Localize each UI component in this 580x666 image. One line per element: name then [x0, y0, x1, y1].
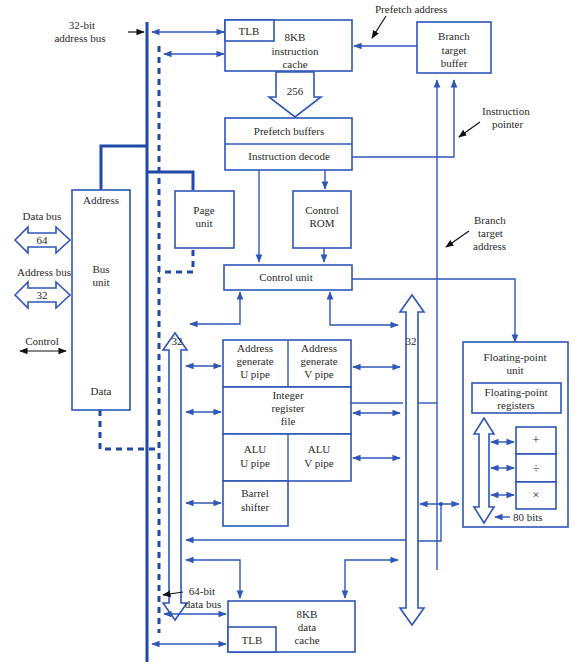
- svg-text:Branch: Branch: [474, 214, 506, 226]
- integer-core: Address generate U pipe Address generate…: [223, 340, 351, 526]
- svg-text:Prefetch address: Prefetch address: [375, 3, 447, 15]
- svg-text:Address: Address: [83, 194, 119, 206]
- svg-text:ALU: ALU: [244, 443, 267, 455]
- page-unit-address-link: [147, 172, 193, 190]
- prefetch-buffers: Prefetch buffers: [254, 125, 324, 137]
- svg-text:×: ×: [532, 487, 539, 502]
- svg-text:Address: Address: [237, 342, 273, 354]
- svg-text:U pipe: U pipe: [240, 368, 270, 380]
- svg-text:Control: Control: [25, 335, 59, 347]
- svg-text:Control unit: Control unit: [259, 271, 312, 283]
- svg-text:8KB: 8KB: [297, 608, 318, 620]
- svg-text:address: address: [473, 240, 506, 252]
- bus-unit: Address Bus unit Data: [72, 190, 130, 410]
- svg-text:data: data: [298, 621, 316, 633]
- svg-text:buffer: buffer: [441, 57, 468, 69]
- svg-text:Barrel: Barrel: [241, 487, 268, 499]
- svg-text:Address: Address: [301, 342, 337, 354]
- svg-text:Bus: Bus: [92, 263, 109, 275]
- svg-text:cache: cache: [282, 58, 307, 70]
- svg-text:80 bits: 80 bits: [513, 511, 543, 523]
- svg-text:256: 256: [287, 85, 304, 97]
- svg-text:U pipe: U pipe: [240, 457, 270, 469]
- instruction-cache: TLB 8KB instruction cache: [225, 20, 352, 71]
- control-rom: Control ROM: [293, 191, 351, 248]
- svg-text:Floating-point: Floating-point: [485, 386, 548, 398]
- svg-text:register: register: [272, 402, 305, 414]
- svg-text:Floating-point: Floating-point: [484, 351, 547, 363]
- svg-text:unit: unit: [506, 364, 523, 376]
- svg-text:TLB: TLB: [239, 25, 260, 37]
- left-32-bus-arrow: [163, 333, 187, 620]
- svg-text:64: 64: [37, 234, 49, 246]
- instruction-decode: Instruction decode: [248, 150, 330, 162]
- processor-block-diagram: TLB 8KB instruction cache 256 Branch tar…: [0, 0, 580, 666]
- svg-text:instruction: instruction: [271, 45, 319, 57]
- svg-text:Integer: Integer: [272, 389, 303, 401]
- svg-text:Page: Page: [193, 204, 215, 216]
- svg-text:Control: Control: [305, 204, 339, 216]
- svg-text:V pipe: V pipe: [304, 368, 334, 380]
- branch-target-buffer: Branch target buffer: [417, 22, 491, 73]
- svg-text:file: file: [281, 415, 296, 427]
- floating-point-unit: Floating-point unit Floating-point regis…: [463, 342, 568, 527]
- svg-text:pointer: pointer: [492, 118, 523, 130]
- svg-text:Instruction: Instruction: [482, 105, 530, 117]
- bus-unit-data-link: [100, 410, 159, 449]
- svg-text:32: 32: [406, 335, 417, 347]
- svg-text:Data: Data: [91, 385, 112, 397]
- svg-text:generate: generate: [300, 355, 337, 367]
- svg-text:Branch: Branch: [438, 30, 470, 42]
- svg-text:8KB: 8KB: [285, 31, 306, 43]
- svg-text:unit: unit: [195, 217, 212, 229]
- svg-text:Address bus: Address bus: [17, 266, 71, 278]
- svg-text:target: target: [442, 44, 467, 56]
- control-unit: Control unit: [224, 265, 352, 290]
- svg-text:÷: ÷: [532, 460, 539, 475]
- page-unit-data-link: [159, 250, 193, 272]
- svg-text:shifter: shifter: [241, 501, 269, 513]
- svg-text:Data bus: Data bus: [23, 210, 62, 222]
- data-cache: TLB 8KB data cache: [228, 601, 355, 652]
- page-unit: Page unit: [175, 191, 234, 248]
- prefetch-decode: Prefetch buffers Instruction decode: [225, 118, 352, 170]
- svg-text:32-bit: 32-bit: [69, 19, 95, 31]
- svg-text:generate: generate: [236, 355, 273, 367]
- svg-text:+: +: [532, 432, 539, 447]
- svg-text:ROM: ROM: [309, 217, 334, 229]
- svg-text:data bus: data bus: [185, 598, 221, 610]
- svg-text:64-bit: 64-bit: [189, 585, 215, 597]
- svg-text:target: target: [478, 227, 503, 239]
- svg-text:TLB: TLB: [242, 634, 263, 646]
- svg-text:address bus: address bus: [54, 32, 105, 44]
- svg-text:cache: cache: [294, 634, 319, 646]
- svg-text:32: 32: [172, 335, 183, 347]
- svg-text:V pipe: V pipe: [304, 457, 334, 469]
- svg-text:registers: registers: [497, 399, 534, 411]
- svg-text:ALU: ALU: [308, 443, 331, 455]
- svg-text:32: 32: [37, 289, 48, 301]
- svg-text:unit: unit: [92, 276, 109, 288]
- bus-unit-address-link: [101, 146, 147, 190]
